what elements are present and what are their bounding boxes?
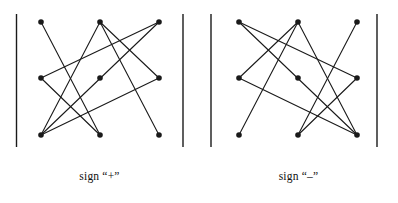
node-TM — [97, 19, 103, 25]
node-TL — [236, 19, 242, 25]
caption-sign-plus: sign “+” — [0, 170, 199, 182]
node-TR — [354, 19, 360, 25]
node-MM — [97, 75, 103, 81]
node-BM — [295, 132, 301, 138]
caption-sign-minus: sign “–” — [199, 170, 398, 182]
node-BR — [354, 132, 360, 138]
node-TL — [38, 19, 44, 25]
node-BR — [156, 132, 162, 138]
node-ML — [38, 75, 44, 81]
node-ML — [236, 75, 242, 81]
node-BL — [38, 132, 44, 138]
node-MR — [354, 75, 360, 81]
node-BM — [97, 132, 103, 138]
node-MM — [295, 75, 301, 81]
node-TM — [295, 19, 301, 25]
node-BL — [236, 132, 242, 138]
node-TR — [156, 19, 162, 25]
node-MR — [156, 75, 162, 81]
